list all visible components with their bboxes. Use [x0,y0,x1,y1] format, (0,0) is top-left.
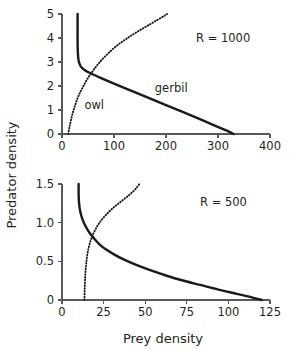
x-tick-label: 400 [259,139,281,153]
y-axis-title-group: Predator density [4,121,19,228]
y-tick-label: 0 [47,293,54,307]
y-tick-label: 4 [47,31,54,45]
y-tick-label: 2 [47,79,54,93]
y-tick-label: 1.5 [36,177,54,191]
x-tick-label: 200 [155,139,177,153]
panel-top-annotation: R = 1000 [196,31,250,45]
x-tick-label: 0 [58,139,65,153]
x-tick-label: 300 [207,139,229,153]
y-tick-label: 0 [47,127,54,141]
y-tick-label: 1 [47,103,54,117]
x-tick-label: 125 [259,305,281,319]
x-tick-label: 75 [179,305,194,319]
y-tick-label: 3 [47,55,54,69]
x-tick-label: 100 [217,305,239,319]
panel-top: 0100200300400012345 gerbilowl R = 1000 [47,7,281,153]
y-tick-label: 1.0 [36,216,54,230]
curve-label-owl: owl [84,98,104,112]
x-tick-label: 0 [58,305,65,319]
y-tick-label: 5 [47,7,54,21]
curve-label-gerbil: gerbil [155,81,188,95]
panel-bottom: 025507510012500.51.01.5 R = 500 [36,177,281,319]
y-tick-label: 0.5 [36,254,54,268]
panel-top-tick-labels: 0100200300400012345 [47,7,281,153]
curve-owl [68,14,167,134]
predator-prey-figure: Predator density 0100200300400012345 ger… [0,0,289,350]
y-axis-title: Predator density [4,121,19,228]
x-axis-title: Prey density [123,331,203,346]
x-tick-label: 100 [103,139,125,153]
panel-bottom-annotation: R = 500 [200,195,247,209]
x-tick-label: 50 [138,305,153,319]
x-tick-label: 25 [96,305,111,319]
curve-owl [84,184,139,300]
